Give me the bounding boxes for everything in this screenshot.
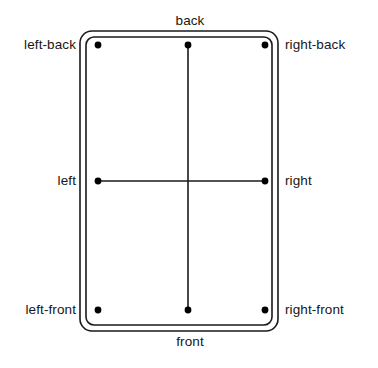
dot-right	[262, 178, 269, 185]
dot-back	[185, 42, 192, 49]
label-front: front	[176, 335, 204, 349]
label-right-front: right-front	[285, 303, 344, 317]
dot-front	[185, 307, 192, 314]
label-right-back: right-back	[285, 38, 345, 52]
dot-left-front	[95, 307, 102, 314]
dot-left	[95, 178, 102, 185]
label-left-front: left-front	[25, 303, 76, 317]
dot-right-back	[262, 42, 269, 49]
dot-left-back	[95, 42, 102, 49]
label-left: left	[58, 174, 76, 188]
label-left-back: left-back	[24, 38, 76, 52]
dot-right-front	[262, 307, 269, 314]
label-right: right	[285, 174, 312, 188]
orientation-diagram: back left-back right-back left right lef…	[0, 0, 378, 368]
label-back: back	[176, 14, 205, 28]
